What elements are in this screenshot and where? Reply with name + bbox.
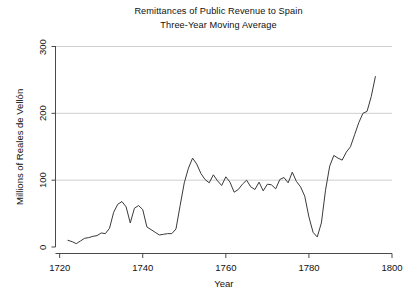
plot-area xyxy=(0,0,415,300)
y-axis-tick-label: 100 xyxy=(37,172,48,188)
y-axis-tick-label: 0 xyxy=(37,244,48,249)
chart-figure: Remittances of Public Revenue to Spain T… xyxy=(0,0,415,300)
x-axis-tick-label: 1800 xyxy=(382,262,403,273)
x-axis-tick-label: 1720 xyxy=(49,262,70,273)
axis-lines xyxy=(56,46,393,254)
y-axis-tick-label: 200 xyxy=(37,105,48,121)
x-axis-title: Year xyxy=(214,278,233,289)
y-axis-tick-label: 300 xyxy=(37,39,48,55)
x-axis-tick-label: 1780 xyxy=(298,262,319,273)
data-series-line xyxy=(68,77,375,244)
x-axis-ticks xyxy=(60,254,392,259)
x-axis-tick-label: 1760 xyxy=(215,262,236,273)
y-axis-ticks xyxy=(52,47,56,248)
x-axis-tick-label: 1740 xyxy=(132,262,153,273)
y-axis-title: Millions of Reales de Vellón xyxy=(14,89,25,205)
